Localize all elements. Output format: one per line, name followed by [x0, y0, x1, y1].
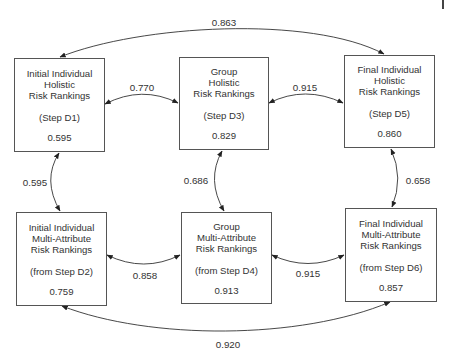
edge-d4-d6 — [272, 255, 344, 264]
node-value: 0.857 — [379, 282, 403, 293]
node-title: Initial Individual Multi-Attribute Risk … — [29, 222, 95, 255]
edge-d2-d4 — [107, 255, 180, 264]
node-d3-group-holistic: Group Holistic Risk Rankings (Step D3) 0… — [179, 57, 269, 150]
node-d4-group-multi-attribute: Group Multi-Attribute Risk Rankings (fro… — [181, 212, 272, 304]
node-step: (Step D1) — [39, 112, 80, 123]
connector-layer — [0, 0, 449, 360]
node-title: Final Individual Multi-Attribute Risk Ra… — [359, 218, 423, 251]
edge-d3-d5 — [269, 94, 343, 103]
node-step: (Step D5) — [369, 108, 410, 119]
page-edge-mark — [442, 0, 444, 9]
node-title: Final Individual Holistic Risk Rankings — [358, 64, 422, 97]
edge-d5-d6 — [391, 149, 398, 207]
edge-label-d1-d3: 0.770 — [130, 82, 155, 93]
edge-d1-d3 — [105, 94, 178, 104]
node-title: Group Holistic Risk Rankings — [193, 66, 254, 99]
node-value: 0.595 — [47, 132, 71, 143]
edge-label-d1-d2: 0.595 — [23, 177, 48, 188]
edge-label-d2-d4: 0.858 — [133, 270, 158, 281]
node-step: (from Step D6) — [360, 262, 423, 273]
edge-label-d3-d5: 0.915 — [293, 82, 318, 93]
node-value: 0.829 — [212, 130, 236, 141]
node-d1-initial-individual-holistic: Initial Individual Holistic Risk Ranking… — [14, 58, 105, 152]
edge-d1-d5 — [60, 18, 300, 56]
node-step: (from Step D4) — [195, 265, 258, 276]
edge-d1-d2 — [51, 153, 60, 211]
edge-label-d5-d6: 0.658 — [406, 175, 431, 186]
edge-label-d3-d4: 0.686 — [184, 175, 209, 186]
edge-d1-d5-arc — [60, 29, 384, 57]
edge-d3-d4 — [214, 151, 224, 211]
node-d6-final-individual-multi-attribute: Final Individual Multi-Attribute Risk Ra… — [345, 208, 437, 302]
node-value: 0.860 — [377, 128, 401, 139]
node-d5-final-individual-holistic: Final Individual Holistic Risk Rankings … — [344, 55, 435, 148]
correlation-diagram: Initial Individual Holistic Risk Ranking… — [0, 0, 449, 360]
edge-label-d2-d6: 0.920 — [216, 339, 241, 350]
node-d2-initial-individual-multi-attribute: Initial Individual Multi-Attribute Risk … — [16, 212, 107, 306]
node-value: 0.759 — [49, 286, 73, 297]
edge-d2-d6 — [62, 302, 390, 331]
edge-label-d1-d5: 0.863 — [212, 17, 237, 28]
node-value: 0.913 — [214, 285, 238, 296]
node-step: (Step D3) — [203, 110, 244, 121]
node-title: Initial Individual Holistic Risk Ranking… — [27, 68, 93, 101]
node-title: Group Multi-Attribute Risk Rankings — [196, 221, 257, 254]
node-step: (from Step D2) — [30, 266, 93, 277]
edge-label-d4-d6: 0.915 — [296, 268, 321, 279]
